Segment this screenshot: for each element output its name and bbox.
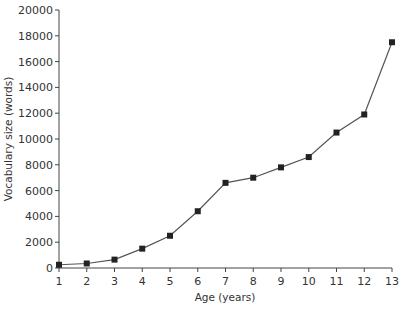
y-tick-label: 0 [46, 262, 53, 275]
data-point-marker [306, 154, 312, 160]
x-axis-label: Age (years) [195, 291, 256, 303]
y-tick-label: 2000 [25, 236, 53, 249]
data-point-marker [112, 257, 118, 263]
y-tick-label: 10000 [18, 133, 53, 146]
x-tick-label: 5 [167, 275, 174, 288]
data-point-marker [334, 130, 340, 136]
y-tick-label: 6000 [25, 185, 53, 198]
y-axis-ticks: 0200040006000800010000120001400016000180… [18, 4, 59, 275]
x-axis-ticks: 12345678910111213 [56, 268, 400, 288]
x-tick-label: 1 [56, 275, 63, 288]
x-tick-label: 13 [385, 275, 399, 288]
y-tick-label: 12000 [18, 107, 53, 120]
x-tick-label: 8 [250, 275, 257, 288]
data-point-marker [389, 39, 395, 45]
data-markers [56, 39, 395, 268]
data-point-marker [56, 262, 62, 268]
y-tick-label: 16000 [18, 56, 53, 69]
y-tick-label: 18000 [18, 30, 53, 43]
data-point-marker [195, 208, 201, 214]
x-tick-label: 12 [357, 275, 371, 288]
y-tick-label: 8000 [25, 159, 53, 172]
data-point-marker [84, 260, 90, 266]
x-tick-label: 11 [330, 275, 344, 288]
data-point-marker [223, 180, 229, 186]
data-point-marker [139, 246, 145, 252]
line-chart: 0200040006000800010000120001400016000180… [0, 0, 400, 309]
x-tick-label: 4 [139, 275, 146, 288]
x-tick-label: 10 [302, 275, 316, 288]
data-point-marker [361, 111, 367, 117]
x-tick-label: 3 [111, 275, 118, 288]
y-tick-label: 14000 [18, 81, 53, 94]
data-point-marker [250, 175, 256, 181]
x-tick-label: 9 [278, 275, 285, 288]
y-tick-label: 4000 [25, 210, 53, 223]
series-line [59, 42, 392, 265]
x-tick-label: 6 [194, 275, 201, 288]
x-tick-label: 2 [83, 275, 90, 288]
y-tick-label: 20000 [18, 4, 53, 17]
x-tick-label: 7 [222, 275, 229, 288]
data-point-marker [278, 164, 284, 170]
data-point-marker [167, 233, 173, 239]
y-axis-label: Vocabulary size (words) [2, 77, 14, 202]
